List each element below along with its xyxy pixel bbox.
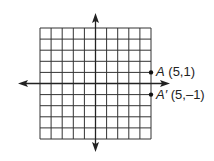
point-a-prime-label: A′ (5,–1) — [156, 88, 205, 101]
point-a-prime-coords: (5,–1) — [171, 87, 205, 102]
point-a-label: A (5,1) — [156, 65, 195, 78]
point-a-dot-icon — [149, 70, 153, 74]
point-a-coords: (5,1) — [168, 64, 195, 79]
point-a-prime-dot-icon — [149, 92, 153, 96]
point-a-name: A — [156, 64, 165, 79]
axes — [18, 13, 170, 152]
point-a-prime-name: A′ — [156, 87, 167, 102]
coordinate-grid — [0, 0, 214, 161]
